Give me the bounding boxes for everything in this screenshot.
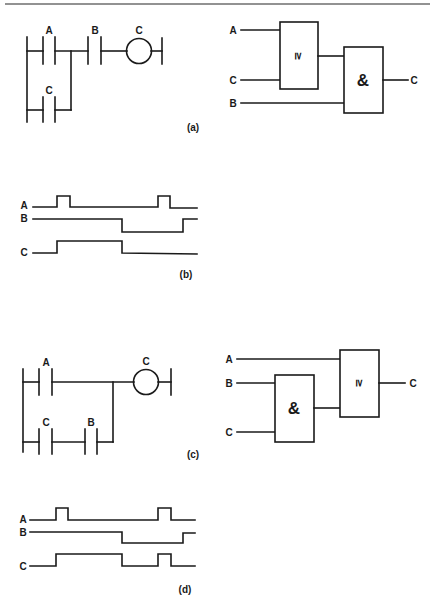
input-a-label: A (229, 25, 236, 36)
caption-d: (d) (179, 584, 192, 595)
input-a-label: A (225, 354, 232, 365)
coil-c (127, 39, 152, 64)
contact-a (43, 37, 55, 64)
and-gate-symbol: & (357, 71, 369, 90)
ladder-diagram-c: A C C B (23, 356, 171, 454)
or-gate-symbol: ≥ (292, 51, 305, 60)
signal-a-trace (30, 508, 195, 520)
signal-c-trace (30, 554, 195, 566)
contact-a-label: A (42, 357, 49, 368)
input-b-label: B (229, 98, 236, 109)
output-c-label: C (409, 378, 416, 389)
contact-b (88, 37, 101, 64)
output-c-label: C (410, 75, 417, 86)
caption-a: (a) (187, 122, 199, 133)
input-b-label: B (225, 378, 232, 389)
input-c-label: C (229, 75, 236, 86)
and-gate-symbol: & (288, 399, 300, 418)
signal-c-label: C (20, 247, 27, 258)
timing-diagram-d: A B C (19, 508, 195, 572)
signal-a-label: A (20, 200, 27, 211)
contact-c-parallel (43, 97, 55, 122)
ladder-diagram-a: A B C C (27, 25, 162, 122)
caption-b: (b) (180, 269, 193, 280)
signal-b-label: B (20, 213, 27, 224)
contact-c-parallel (39, 429, 52, 454)
contact-c-label: C (45, 85, 52, 96)
contact-a-label: A (45, 25, 52, 36)
coil-c-label: C (142, 356, 149, 367)
contact-b-label: B (87, 417, 94, 428)
signal-b-trace (30, 532, 195, 543)
contact-a (39, 369, 52, 395)
timing-diagram-b: A B C (20, 196, 197, 258)
logic-diagram-a: A C ≥ B & C (229, 22, 417, 113)
signal-a-trace (33, 196, 197, 208)
signal-b-label: B (19, 527, 26, 538)
logic-diagram-c: A B C & ≥ C (225, 350, 416, 442)
figure-canvas: A B C C A C ≥ B & C (0, 0, 435, 602)
or-gate-symbol: ≥ (353, 378, 366, 387)
signal-c-label: C (19, 561, 26, 572)
input-c-label: C (225, 427, 232, 438)
signal-a-label: A (19, 514, 26, 525)
contact-c-label: C (42, 417, 49, 428)
coil-c (134, 370, 159, 395)
contact-b-series (85, 429, 97, 454)
signal-c-trace (33, 241, 197, 254)
caption-c: (c) (187, 449, 199, 460)
coil-c-label: C (135, 25, 142, 36)
signal-b-trace (33, 219, 197, 232)
contact-b-label: B (91, 25, 98, 36)
